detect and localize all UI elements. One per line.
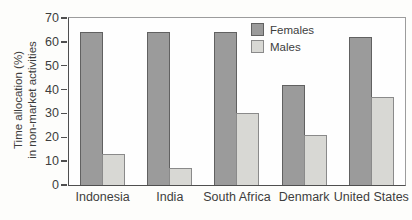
legend-item-males: Males — [251, 40, 314, 53]
bar-females-denmark — [282, 85, 305, 185]
legend-item-females: Females — [251, 23, 314, 36]
x-category-label: Denmark — [279, 190, 330, 204]
x-category-label: United States — [334, 190, 409, 204]
y-tick-label: 30 — [45, 106, 59, 120]
bar-males-indonesia — [102, 154, 125, 185]
bar-males-denmark — [304, 135, 327, 185]
bar-females-united-states — [349, 37, 372, 185]
y-tick-mark — [61, 65, 67, 67]
x-category-label: South Africa — [203, 190, 270, 204]
bar-males-south-africa — [236, 113, 259, 185]
legend-swatch-males — [251, 40, 264, 53]
plot-area: 010203040506070 IndonesiaIndiaSouth Afri… — [68, 17, 406, 186]
bar-groups: IndonesiaIndiaSouth AfricaDenmarkUnited … — [69, 18, 405, 185]
bar-group-indonesia: Indonesia — [80, 18, 125, 185]
y-tick-mark — [61, 113, 67, 115]
y-tick-label: 70 — [45, 11, 59, 25]
legend-swatch-females — [251, 23, 264, 36]
y-tick-label: 10 — [45, 154, 59, 168]
y-tick-mark — [61, 17, 67, 19]
y-tick-label: 20 — [45, 130, 59, 144]
bar-group-india: India — [147, 18, 192, 185]
y-axis-title-line2: in non-market activities — [26, 0, 40, 200]
x-category-label: India — [156, 190, 183, 204]
y-tick-mark — [61, 137, 67, 139]
y-tick-mark — [61, 89, 67, 91]
bar-chart-figure: Time allocation (%) in non-market activi… — [0, 0, 412, 220]
y-axis-title: Time allocation (%) in non-market activi… — [12, 0, 40, 200]
legend-label: Males — [270, 41, 301, 53]
y-axis-title-line1: Time allocation (%) — [12, 0, 26, 200]
legend: FemalesMales — [251, 23, 314, 53]
bar-group-united-states: United States — [349, 18, 394, 185]
bar-females-india — [147, 32, 170, 185]
y-tick-mark — [61, 160, 67, 162]
bar-females-indonesia — [80, 32, 103, 185]
y-tick-mark — [61, 41, 67, 43]
y-tick-label: 40 — [45, 83, 59, 97]
y-tick-mark — [61, 184, 67, 186]
bar-males-united-states — [371, 97, 394, 185]
legend-label: Females — [270, 24, 314, 36]
bar-males-india — [169, 168, 192, 185]
x-category-label: Indonesia — [75, 190, 129, 204]
y-tick-label: 0 — [52, 178, 59, 192]
y-tick-label: 60 — [45, 35, 59, 49]
y-tick-label: 50 — [45, 59, 59, 73]
bar-females-south-africa — [214, 32, 237, 185]
